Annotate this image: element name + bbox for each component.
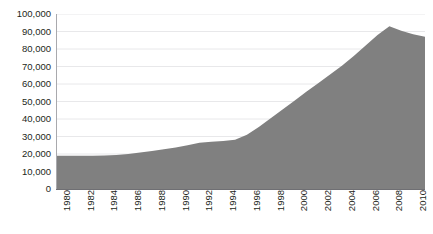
chart-title-cropped <box>0 0 433 7</box>
x-axis-tick-label: 1996 <box>252 190 262 211</box>
y-axis-tick-label: 20,000 <box>22 149 51 159</box>
x-axis-tick-text: 1998 <box>276 190 286 211</box>
x-axis-tick-label: 2008 <box>394 190 404 211</box>
x-axis-tick-label: 1980 <box>62 190 72 211</box>
y-axis: 010,00020,00030,00040,00050,00060,00070,… <box>0 0 54 234</box>
x-axis-tick-label: 2010 <box>418 190 428 211</box>
x-axis-tick-text: 1988 <box>157 190 167 211</box>
y-axis-tick-label: 90,000 <box>22 27 51 37</box>
x-axis-tick-label: 2000 <box>299 190 309 211</box>
x-axis-tick-label: 1992 <box>204 190 214 211</box>
x-axis-tick-text: 2004 <box>347 190 357 211</box>
x-axis-tick-label: 2002 <box>323 190 333 211</box>
y-axis-tick-label: 30,000 <box>22 132 51 142</box>
x-axis: 1980198219841986198819901992199419961998… <box>57 190 425 234</box>
x-axis-tick-text: 1982 <box>86 190 96 211</box>
x-axis-tick-text: 2002 <box>323 190 333 211</box>
x-axis-tick-text: 2006 <box>371 190 381 211</box>
x-axis-tick-label: 1982 <box>86 190 96 211</box>
plot-svg <box>57 14 425 189</box>
x-axis-tick-label: 1998 <box>276 190 286 211</box>
x-axis-tick-label: 2004 <box>347 190 357 211</box>
x-axis-tick-label: 1986 <box>133 190 143 211</box>
y-axis-tick-label: 10,000 <box>22 167 51 177</box>
plot-area <box>57 14 425 189</box>
y-axis-tick-label: 70,000 <box>22 62 51 72</box>
x-axis-tick-text: 2010 <box>418 190 428 211</box>
x-axis-tick-text: 2008 <box>394 190 404 211</box>
x-axis-tick-text: 1990 <box>181 190 191 211</box>
x-axis-tick-label: 1990 <box>181 190 191 211</box>
y-axis-tick-label: 0 <box>46 184 51 194</box>
x-axis-tick-label: 1994 <box>228 190 238 211</box>
x-axis-tick-text: 1984 <box>109 190 119 211</box>
x-axis-tick-label: 1984 <box>109 190 119 211</box>
x-axis-tick-text: 1996 <box>252 190 262 211</box>
y-axis-tick-label: 60,000 <box>22 79 51 89</box>
x-axis-tick-text: 1992 <box>204 190 214 211</box>
y-axis-tick-label: 80,000 <box>22 44 51 54</box>
y-axis-tick-label: 100,000 <box>17 9 51 19</box>
x-axis-tick-label: 2006 <box>371 190 381 211</box>
x-axis-tick-label: 1988 <box>157 190 167 211</box>
y-axis-tick-label: 40,000 <box>22 114 51 124</box>
y-axis-tick-label: 50,000 <box>22 97 51 107</box>
x-axis-tick-text: 1980 <box>62 190 72 211</box>
area-chart: 010,00020,00030,00040,00050,00060,00070,… <box>0 0 433 234</box>
x-axis-tick-text: 2000 <box>299 190 309 211</box>
x-axis-tick-text: 1994 <box>228 190 238 211</box>
area-series-1 <box>57 26 425 189</box>
x-axis-tick-text: 1986 <box>133 190 143 211</box>
